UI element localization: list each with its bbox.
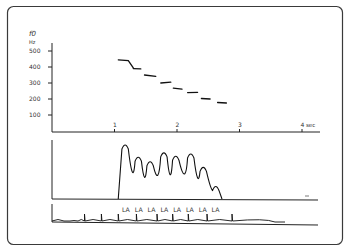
y-tick-label: 500 [29,47,41,54]
f0-segment [173,88,182,89]
y-tick-label: 100 [29,111,41,118]
y-tick-label: 200 [29,95,41,102]
y-tick-label: 300 [29,79,41,86]
f0-panel: f0 Hz 100200300400500 1234 sec [29,30,320,132]
amp-baseline [52,199,318,200]
syllable-label: LA [160,206,169,213]
syllable-label: LA [212,206,221,213]
waveform-panel: LALALALALALALALA [52,204,318,225]
x-axis-unit: sec [306,122,315,128]
f0-segment [145,75,156,76]
syllable-label: LA [122,206,131,213]
x-tick-label: 1 [113,121,117,128]
y-tick-label: 400 [29,63,41,70]
f0-segment [161,82,171,83]
y-axis-label: f0 [29,30,36,38]
x-tick-label: 4 [301,121,305,128]
f0-segment [218,103,227,104]
x-ticks: 1234 [113,121,305,132]
syllable-label: LA [148,206,157,213]
x-tick-label: 3 [238,121,242,128]
figure: f0 Hz 100200300400500 1234 sec LALALALAL… [0,0,349,250]
f0-segment [201,99,210,100]
amplitude-envelope [118,145,222,199]
x-tick-label: 2 [176,121,180,128]
syllable-label: LA [135,206,144,213]
y-ticks: 100200300400500 [29,47,52,118]
f0-contour [118,60,226,103]
syllable-label: LA [199,206,208,213]
syllable-label: LA [186,206,195,213]
amplitude-panel [52,140,318,200]
syllable-label: LA [173,206,182,213]
waveform-trace [52,214,285,222]
y-axis-unit: Hz [29,39,36,45]
f0-segment [118,60,133,68]
syllable-labels: LALALALALALALALA [122,206,220,213]
